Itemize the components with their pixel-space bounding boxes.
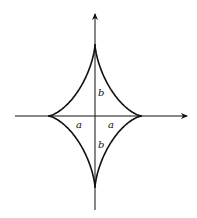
label-a-right: a: [108, 119, 114, 130]
label-b-upper: b: [98, 87, 104, 98]
label-a-left: a: [76, 119, 82, 130]
label-b-lower: b: [98, 139, 104, 150]
astroid-diagram: b b a a: [0, 0, 197, 218]
